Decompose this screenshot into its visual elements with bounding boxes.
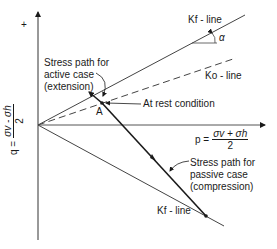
passive-path-end-point: [204, 214, 208, 218]
p-label-lhs: p =: [195, 134, 209, 145]
active-case-line3: (extension): [44, 81, 93, 92]
ko-label: Ko - line: [205, 70, 242, 81]
kf-upper-label: Kf - line: [188, 14, 222, 25]
q-label-lhs: q =: [8, 141, 19, 155]
q-label-denominator: 2: [14, 118, 25, 124]
passive-case-line3: (compression): [190, 181, 253, 192]
passive-case-line2: passive case: [190, 169, 248, 180]
at-rest-leader: [106, 103, 141, 104]
passive-case-leader: [170, 161, 189, 171]
p-label-denominator: 2: [227, 140, 233, 151]
alpha-label: α: [219, 32, 225, 43]
q-axis-label: q = σv - σh 2: [2, 104, 25, 155]
at-rest-label: At rest condition: [143, 98, 215, 109]
active-case-leader: [96, 73, 105, 96]
passive-case-line1: Stress path for: [190, 157, 255, 168]
alpha-arc-icon: [212, 33, 215, 43]
p-label-numerator: σv + σh: [212, 128, 248, 140]
active-stress-path: [89, 92, 102, 103]
active-case-line1: Stress path for: [44, 57, 109, 68]
point-a-label: A: [96, 106, 103, 117]
p-axis-label: p = σv + σh 2: [195, 128, 248, 151]
y-axis-plus-sign: +: [21, 19, 27, 30]
point-a-marker: [100, 101, 104, 105]
active-case-line2: active case: [44, 69, 94, 80]
stress-path-diagram: [0, 0, 277, 249]
kf-lower-label: Kf - line: [157, 205, 191, 216]
q-label-numerator: σv - σh: [2, 104, 14, 138]
